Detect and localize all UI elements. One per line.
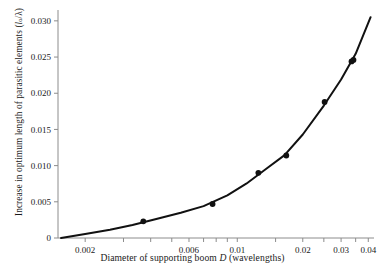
data-point — [255, 170, 261, 176]
data-point — [140, 218, 146, 224]
data-point — [351, 57, 357, 63]
data-point — [322, 99, 328, 105]
y-axis-title-tail: /λ) — [14, 8, 24, 19]
data-point — [210, 201, 216, 207]
x-axis-title-tail: (wavelengths) — [226, 252, 284, 263]
y-axis-tick-label: 0.025 — [31, 52, 52, 62]
x-axis-title-main: Diameter of supporting boom — [100, 252, 219, 263]
figure: 00.0050.0100.0150.0200.0250.030 0.0020.0… — [0, 0, 385, 273]
y-axis-title-main: Increase in optimum length of parasitic … — [14, 24, 24, 216]
y-axis-tick-label: 0.020 — [31, 88, 52, 98]
x-axis-title: Diameter of supporting boom D (wavelengt… — [0, 252, 385, 263]
y-axis-tick-label: 0.030 — [31, 16, 52, 26]
y-axis-title: Increase in optimum length of parasitic … — [11, 0, 27, 227]
chart-canvas: 00.0050.0100.0150.0200.0250.030 0.0020.0… — [0, 0, 385, 273]
y-axis-title-variable: l — [14, 22, 24, 25]
y-axis-title-subscript: o — [16, 18, 23, 21]
y-axis-tick-label: 0.015 — [31, 125, 52, 135]
y-axis-tick-label: 0.005 — [31, 197, 52, 207]
y-axis-tick-label: 0.010 — [31, 161, 52, 171]
data-point — [283, 153, 289, 159]
y-axis-tick-label: 0 — [47, 233, 52, 243]
